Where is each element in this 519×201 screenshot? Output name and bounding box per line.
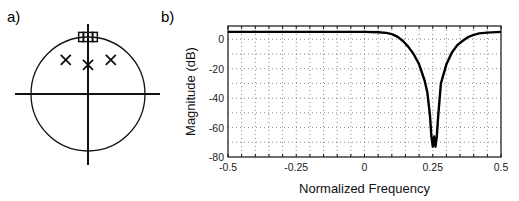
- y-tick-label: 0: [218, 33, 224, 45]
- x-tick-label: 0.5: [494, 161, 509, 173]
- magnitude-plot: -0.5-0.2500.250.50-20-40-60-80Normalized…: [183, 26, 508, 196]
- y-tick-label: -60: [209, 122, 224, 134]
- x-tick-label: 0: [362, 161, 368, 173]
- panel-b-label: b): [161, 8, 174, 25]
- x-tick-label: 0.25: [423, 161, 444, 173]
- y-tick-label: -80: [209, 151, 224, 163]
- y-tick-label: -20: [209, 63, 224, 75]
- pole-marker-0: [61, 55, 71, 65]
- figure: a) b) -0.5-0.2500.250.50-20-40-60-80Norm…: [0, 0, 519, 201]
- panel-a-label: a): [7, 8, 20, 25]
- x-axis-title: Normalized Frequency: [299, 181, 430, 196]
- pole-marker-2: [106, 55, 116, 65]
- x-tick-label: -0.25: [284, 161, 308, 173]
- magnitude-line: [228, 32, 501, 147]
- y-axis-title: Magnitude (dB): [183, 47, 198, 136]
- plot-frame: [228, 26, 501, 157]
- pole-zero-plot: [15, 24, 160, 165]
- y-tick-label: -40: [209, 92, 224, 104]
